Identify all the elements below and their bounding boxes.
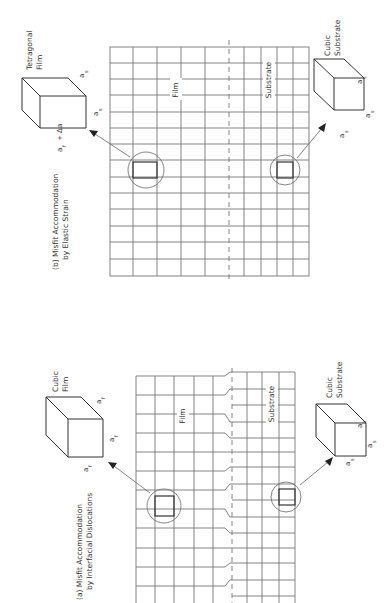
- svg-text:f: f: [100, 397, 106, 399]
- panel-a-top-cube-label-2: Film: [61, 377, 70, 392]
- panel-b-top-cube-label-1: Tetragonal: [25, 31, 34, 71]
- panel-b-tetragonal-film-cube: [22, 78, 86, 128]
- panel-a-arrow-to-film-cube: [108, 462, 150, 493]
- panel-a-film-magnifier: [147, 489, 181, 523]
- svg-text:f: f: [113, 435, 119, 437]
- panel-b-bottom-cube-label-1: Cubic: [323, 35, 332, 56]
- panel-b-bottom-cube-label-2: Substrate: [333, 19, 342, 56]
- svg-text:a: a: [78, 74, 86, 78]
- panel-a-caption-line-1: (a) Misfit Accommodation: [75, 504, 84, 600]
- svg-text:s: s: [361, 420, 367, 423]
- panel-b-arrow-to-film-cube: [89, 130, 130, 157]
- svg-text:a: a: [56, 148, 64, 152]
- svg-text:s: s: [361, 76, 367, 79]
- misfit-accommodation-figure: Film Substrate Tetrag: [0, 0, 387, 603]
- svg-text:a: a: [82, 468, 90, 472]
- panel-a-bottom-cube-edge-labels: a s a s a s: [344, 420, 377, 466]
- panel-a: Film Substrate Cubic Fil: [46, 361, 377, 603]
- svg-text:f: f: [87, 465, 93, 467]
- svg-text:s: s: [83, 70, 89, 73]
- svg-text:s: s: [369, 110, 375, 113]
- panel-a-top-cube-label-1: Cubic: [51, 371, 60, 392]
- panel-b: Film Substrate Tetrag: [22, 19, 375, 283]
- svg-text:a: a: [92, 112, 100, 116]
- panel-b-substrate-label: Substrate: [264, 61, 273, 98]
- panel-a-substrate-magnifier: [271, 482, 301, 512]
- svg-text:s: s: [97, 108, 103, 111]
- svg-text:a: a: [344, 462, 352, 466]
- panel-b-caption-line-2: by Elastic Strain: [61, 199, 70, 260]
- panel-a-top-cube-edge-labels: a f a f a f: [82, 397, 119, 472]
- svg-text:a: a: [356, 80, 364, 84]
- panel-b-bottom-cube-edge-labels: a s a s a s: [338, 76, 375, 138]
- panel-b-film-label: Film: [171, 82, 180, 97]
- svg-text:a: a: [338, 134, 346, 138]
- svg-text:s: s: [349, 458, 355, 461]
- panel-b-top-cube-edge-labels: a s a s a f + Δa: [56, 70, 103, 152]
- panel-b-film-magnifier: [128, 152, 164, 188]
- svg-text:+ Δa: + Δa: [56, 124, 64, 141]
- panel-a-film-label: Film: [178, 408, 187, 423]
- panel-a-bottom-cube-label-1: Cubic: [325, 377, 334, 398]
- panel-a-cubic-substrate-cube: [316, 404, 366, 456]
- svg-text:a: a: [364, 114, 372, 118]
- panel-a-bottom-cube-label-2: Substrate: [335, 361, 344, 398]
- svg-text:f: f: [61, 145, 67, 147]
- panel-b-substrate-magnifier: [270, 155, 300, 185]
- panel-b-caption-line-1: (b) Misfit Accommodation: [51, 173, 60, 270]
- panel-a-arrow-to-substrate-cube: [300, 457, 333, 485]
- panel-a-cubic-film-cube: [46, 397, 103, 457]
- panel-a-substrate-label: Substrate: [267, 385, 276, 422]
- svg-text:a: a: [95, 400, 103, 404]
- panel-a-caption-line-2: by Interfacial Dislocations: [85, 493, 94, 590]
- svg-text:s: s: [343, 130, 349, 133]
- svg-text:s: s: [371, 440, 377, 443]
- svg-text:a: a: [356, 424, 364, 428]
- panel-b-top-cube-label-2: Film: [35, 55, 44, 70]
- svg-text:a: a: [366, 444, 374, 448]
- svg-text:a: a: [108, 438, 116, 442]
